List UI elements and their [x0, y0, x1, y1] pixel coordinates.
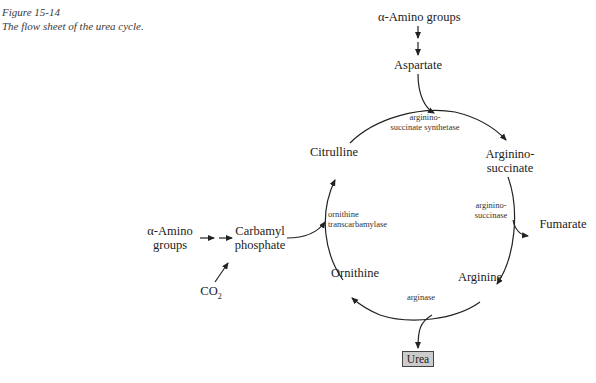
amino-line-1: α-Amino [145, 224, 195, 238]
argininosuccinate-line-1: Arginino- [475, 147, 545, 161]
urea-label: Urea [407, 352, 429, 366]
carbamyl-line-1: Carbamyl [232, 224, 288, 238]
urea-box: Urea [402, 351, 434, 367]
co2-label: CO2 [196, 284, 226, 304]
enzyme-line-1: arginino- [470, 200, 512, 210]
carbamyl-phosphate-label: Carbamyl phosphate [232, 224, 288, 252]
fumarate-label: Fumarate [533, 217, 593, 231]
citrulline-label: Citrulline [304, 145, 364, 159]
carbamyl-line-2: phosphate [232, 238, 288, 252]
argininosuccinate-line-2: succinate [475, 161, 545, 175]
argininosuccinate-label: Arginino- succinate [475, 147, 545, 175]
amino-line-2: groups [145, 238, 195, 252]
enzyme-line-2: succinase [470, 210, 512, 220]
enzyme-ornithine-transcarbamylase: ornithine transcarbamylase [328, 209, 387, 229]
co2-subscript: 2 [218, 292, 222, 301]
enzyme-line-1: arginino- [385, 112, 465, 122]
enzyme-argininosuccinase: arginino- succinase [470, 200, 512, 220]
urea-cycle-arrows [0, 0, 596, 383]
enzyme-argininosuccinate-synthetase: arginino- succinate synthetase [385, 112, 465, 132]
enzyme-line-1: ornithine [328, 209, 387, 219]
enzyme-line-2: transcarbamylase [328, 219, 387, 229]
arginine-label: Arginine [450, 270, 510, 284]
enzyme-arginase: arginase [396, 292, 446, 302]
alpha-amino-groups-top: α-Amino groups [378, 10, 458, 24]
ornithine-label: Ornithine [325, 266, 385, 280]
co2-base: CO [200, 284, 217, 298]
alpha-amino-groups-left: α-Amino groups [145, 224, 195, 252]
enzyme-line-2: succinate synthetase [385, 122, 465, 132]
aspartate-label: Aspartate [388, 58, 448, 72]
